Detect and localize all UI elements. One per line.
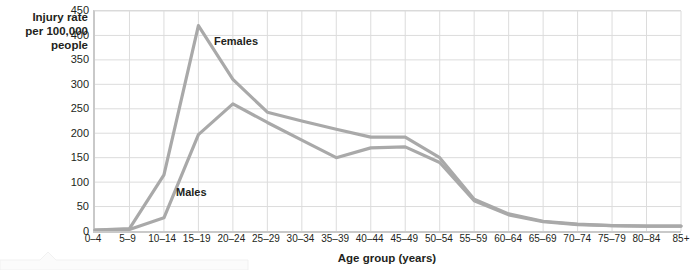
y-tick-label: 200 — [49, 127, 89, 139]
x-tick-label: 35–39 — [321, 233, 349, 244]
y-tick-label: 400 — [49, 29, 89, 41]
y-tick-label: 100 — [49, 176, 89, 188]
x-tick-label: 65–69 — [529, 233, 557, 244]
x-axis-tick-labels: 0–45–910–1415–1920–2425–2930–3435–3940–4… — [93, 233, 681, 249]
x-tick-label: 55–59 — [460, 233, 488, 244]
y-axis-tick-labels: 050100150200250300350400450 — [45, 10, 89, 231]
y-tick-label: 300 — [49, 78, 89, 90]
series-line-females — [95, 26, 681, 230]
x-tick-label: 30–34 — [287, 233, 315, 244]
x-tick-label: 15–19 — [183, 233, 211, 244]
y-tick-label: 0 — [49, 225, 89, 237]
y-tick-label: 250 — [49, 102, 89, 114]
y-tick-label: 50 — [49, 200, 89, 212]
y-tick-label: 150 — [49, 151, 89, 163]
y-tick-label: 450 — [49, 4, 89, 16]
x-tick-label: 70–74 — [563, 233, 591, 244]
x-tick-label: 40–44 — [356, 233, 384, 244]
x-tick-label: 25–29 — [252, 233, 280, 244]
series-lines — [95, 11, 681, 231]
x-tick-label: 45–49 — [390, 233, 418, 244]
x-axis-title: Age group (years) — [93, 252, 681, 264]
x-tick-label: 50–54 — [425, 233, 453, 244]
series-line-males — [95, 104, 681, 230]
x-tick-label: 20–24 — [217, 233, 245, 244]
x-tick-label: 60–64 — [494, 233, 522, 244]
x-tick-label: 85+ — [673, 233, 690, 244]
x-tick-label: 10–14 — [148, 233, 176, 244]
x-tick-label: 0–4 — [85, 233, 102, 244]
y-tick-label: 350 — [49, 53, 89, 65]
series-label-males: Males — [176, 186, 207, 198]
injury-rate-line-chart: Injury rate per 100,000 people 050100150… — [0, 0, 690, 270]
series-label-females: Females — [214, 35, 258, 47]
x-tick-label: 80–84 — [633, 233, 661, 244]
x-tick-label: 75–79 — [598, 233, 626, 244]
plot-inner — [95, 11, 681, 231]
x-tick-label: 5–9 — [119, 233, 136, 244]
